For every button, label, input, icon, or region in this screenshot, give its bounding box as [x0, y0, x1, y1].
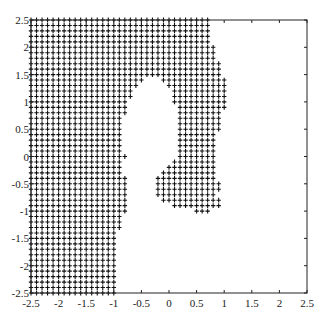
plus-marker — [51, 72, 55, 77]
plus-marker — [62, 274, 66, 279]
plus-marker — [56, 165, 60, 170]
plus-marker — [45, 192, 49, 197]
plus-marker — [112, 100, 116, 105]
plus-marker — [139, 34, 143, 39]
plus-marker — [112, 231, 116, 236]
plus-marker — [123, 61, 127, 66]
plus-marker — [161, 176, 165, 181]
plus-marker — [172, 94, 176, 99]
plus-marker — [205, 45, 209, 50]
plus-marker — [211, 89, 215, 94]
plus-marker — [112, 78, 116, 83]
plus-marker — [101, 23, 105, 28]
plus-marker — [73, 280, 77, 285]
plus-marker — [172, 45, 176, 50]
plus-marker — [73, 181, 77, 186]
plus-marker — [128, 89, 132, 94]
plus-marker — [216, 89, 220, 94]
plus-marker — [117, 132, 121, 137]
plus-marker — [67, 214, 71, 219]
plus-marker — [56, 181, 60, 186]
plus-marker — [34, 78, 38, 83]
plus-marker — [62, 67, 66, 72]
plus-marker — [73, 236, 77, 241]
plus-marker — [112, 198, 116, 203]
plus-marker — [62, 138, 66, 143]
plus-marker — [106, 89, 110, 94]
plus-marker — [56, 116, 60, 121]
plus-marker — [205, 29, 209, 34]
plus-marker — [73, 149, 77, 154]
plus-marker — [216, 78, 220, 83]
plus-marker — [62, 241, 66, 246]
plus-marker — [211, 127, 215, 132]
plus-marker — [200, 132, 204, 137]
plus-marker — [150, 45, 154, 50]
plus-marker — [200, 67, 204, 72]
plus-marker — [84, 170, 88, 175]
plus-marker — [211, 110, 215, 115]
plus-marker — [73, 29, 77, 34]
plus-marker — [222, 78, 226, 83]
plus-marker — [106, 247, 110, 252]
plus-marker — [205, 39, 209, 44]
plus-marker — [183, 72, 187, 77]
plus-marker — [134, 50, 138, 55]
plus-marker — [200, 127, 204, 132]
plus-marker — [78, 132, 82, 137]
plus-marker — [73, 72, 77, 77]
plus-marker — [45, 241, 49, 246]
plus-marker — [90, 61, 94, 66]
plus-marker — [211, 165, 215, 170]
plus-marker — [34, 94, 38, 99]
plus-marker — [95, 231, 99, 236]
plus-marker — [90, 258, 94, 263]
plus-marker — [172, 50, 176, 55]
plus-marker — [183, 132, 187, 137]
plus-marker — [51, 94, 55, 99]
plus-marker — [194, 165, 198, 170]
plus-marker — [211, 143, 215, 148]
plus-marker — [101, 132, 105, 137]
plus-marker — [178, 94, 182, 99]
plus-marker — [106, 143, 110, 148]
plus-marker — [90, 209, 94, 214]
plus-marker — [51, 105, 55, 110]
plus-marker — [73, 94, 77, 99]
plus-marker — [40, 241, 44, 246]
plus-marker — [34, 274, 38, 279]
plus-marker — [200, 23, 204, 28]
plus-marker — [189, 89, 193, 94]
plus-marker — [139, 29, 143, 34]
plus-marker — [211, 50, 215, 55]
plus-marker — [101, 127, 105, 132]
plus-marker — [51, 127, 55, 132]
plus-marker — [73, 170, 77, 175]
plus-marker — [150, 72, 154, 77]
plus-marker — [84, 247, 88, 252]
plus-marker — [205, 143, 209, 148]
plus-marker — [95, 45, 99, 50]
plus-marker — [216, 198, 220, 203]
plus-marker — [56, 39, 60, 44]
plus-marker — [90, 72, 94, 77]
plus-marker — [73, 34, 77, 39]
plus-marker — [62, 154, 66, 159]
plus-marker — [101, 89, 105, 94]
plus-marker — [40, 127, 44, 132]
plus-marker — [128, 45, 132, 50]
plus-marker — [34, 56, 38, 61]
plus-marker — [78, 45, 82, 50]
plus-marker — [183, 67, 187, 72]
plus-marker — [78, 154, 82, 159]
plus-marker — [194, 56, 198, 61]
plus-marker — [101, 39, 105, 44]
plus-marker — [112, 225, 116, 230]
plus-marker — [51, 176, 55, 181]
plus-marker — [145, 45, 149, 50]
plus-marker — [51, 241, 55, 246]
plus-marker — [51, 23, 55, 28]
plus-marker — [189, 203, 193, 208]
plus-marker — [73, 203, 77, 208]
plus-marker — [128, 29, 132, 34]
